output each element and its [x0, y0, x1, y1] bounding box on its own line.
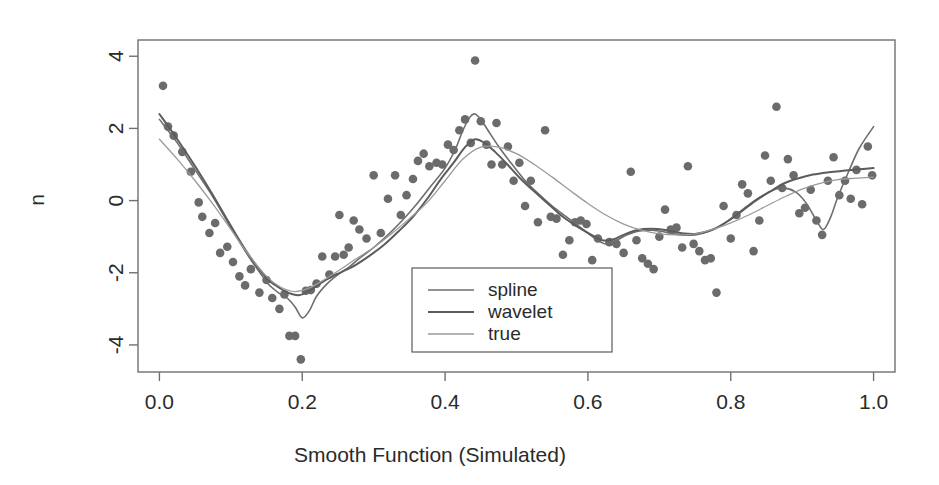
y-tick-label: -4: [105, 335, 128, 354]
data-point: [255, 288, 264, 297]
data-point: [632, 236, 641, 245]
data-point: [331, 252, 340, 261]
data-point: [541, 126, 550, 135]
x-axis-title: Smooth Function (Simulated): [294, 443, 566, 466]
data-point: [318, 252, 327, 261]
data-point: [588, 256, 597, 265]
data-point: [706, 254, 715, 263]
data-point: [744, 189, 753, 198]
data-point: [487, 160, 496, 169]
data-point: [275, 305, 284, 314]
y-axis-title: n: [25, 194, 48, 206]
data-point: [339, 250, 348, 259]
y-tick-label: 2: [105, 123, 128, 135]
y-tick-label: 0: [105, 195, 128, 207]
data-point: [297, 355, 306, 364]
data-point: [772, 102, 781, 111]
data-point: [159, 82, 168, 91]
chart-page: 0.00.20.40.60.81.0 420-2-4 splinewavelet…: [0, 0, 939, 485]
data-point: [738, 180, 747, 189]
data-point: [369, 171, 378, 180]
data-point: [521, 202, 530, 211]
data-point: [784, 155, 793, 164]
data-point: [362, 234, 371, 243]
data-point: [335, 211, 344, 220]
data-point: [509, 176, 518, 185]
data-point: [241, 281, 250, 290]
data-point: [829, 153, 838, 162]
data-point: [515, 158, 524, 167]
data-point: [205, 229, 214, 238]
data-point: [761, 151, 770, 160]
y-tick-label: -2: [105, 263, 128, 282]
data-point: [534, 218, 543, 227]
data-point: [818, 231, 827, 240]
data-point: [384, 194, 393, 203]
data-point: [868, 171, 877, 180]
data-point: [223, 242, 232, 251]
data-point: [689, 240, 698, 249]
data-point: [419, 149, 428, 158]
data-point: [471, 56, 480, 65]
legend-label-spline: spline: [488, 279, 538, 300]
x-tick-label: 0.0: [145, 390, 174, 413]
data-point: [391, 171, 400, 180]
data-point: [858, 200, 867, 209]
data-point: [194, 198, 203, 207]
scatter-smoothing-chart: 0.00.20.40.60.81.0 420-2-4 splinewavelet…: [0, 0, 939, 485]
legend-label-true: true: [488, 323, 521, 344]
data-point: [291, 332, 300, 341]
data-point: [626, 167, 635, 176]
data-point: [684, 162, 693, 171]
data-point: [766, 176, 775, 185]
legend-label-wavelet: wavelet: [487, 301, 553, 322]
data-point: [268, 294, 277, 303]
data-point: [235, 272, 244, 281]
data-point: [377, 229, 386, 238]
data-point: [355, 225, 364, 234]
data-point: [719, 202, 728, 211]
data-point: [755, 216, 764, 225]
data-point: [559, 250, 568, 259]
x-tick-label: 0.6: [573, 390, 602, 413]
x-tick-label: 0.4: [430, 390, 460, 413]
data-point: [409, 175, 418, 184]
data-point: [726, 234, 735, 243]
data-point: [712, 288, 721, 297]
data-point: [414, 157, 423, 166]
data-point: [247, 265, 256, 274]
data-point: [864, 142, 873, 151]
data-point: [552, 214, 561, 223]
data-point: [229, 258, 238, 267]
data-point: [198, 213, 207, 222]
data-point: [661, 205, 670, 214]
data-point: [211, 219, 220, 228]
data-point: [492, 119, 501, 128]
data-point: [695, 247, 704, 256]
y-tick-label: 4: [105, 50, 128, 62]
data-point: [649, 265, 658, 274]
data-point: [619, 249, 628, 258]
data-point: [582, 220, 591, 229]
chart-background: [0, 0, 939, 485]
data-point: [565, 236, 574, 245]
legend: splinewavelettrue: [412, 268, 612, 352]
data-point: [349, 216, 358, 225]
data-point: [402, 191, 411, 200]
data-point: [678, 243, 687, 252]
data-point: [749, 247, 758, 256]
x-tick-label: 1.0: [859, 390, 888, 413]
data-point: [216, 249, 225, 258]
data-point: [846, 194, 855, 203]
x-tick-label: 0.8: [716, 390, 745, 413]
x-tick-label: 0.2: [288, 390, 317, 413]
data-point: [344, 243, 353, 252]
